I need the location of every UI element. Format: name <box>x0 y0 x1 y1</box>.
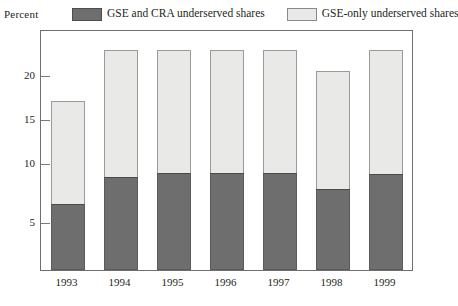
bar-segment-gse-cra-1998 <box>316 189 350 270</box>
plot-area <box>40 30 413 271</box>
bar-1995 <box>157 50 191 270</box>
bar-segment-gse-cra-1997 <box>263 173 297 270</box>
y-tick-label-15: 15 <box>24 113 35 125</box>
y-tick-label-5: 5 <box>30 216 36 228</box>
x-tick-label-1997: 1997 <box>268 276 290 288</box>
bar-segment-gse-cra-1996 <box>210 173 244 270</box>
bar-segment-gse-only-1997 <box>263 50 297 173</box>
bar-segment-gse-cra-1993 <box>51 204 85 270</box>
bar-1999 <box>369 50 403 270</box>
bar-1997 <box>263 50 297 270</box>
y-tick-label-10: 10 <box>24 157 35 169</box>
x-tick-label-1996: 1996 <box>215 276 237 288</box>
bar-segment-gse-cra-1995 <box>157 173 191 270</box>
bar-segment-gse-only-1999 <box>369 50 403 175</box>
x-axis-tick-labels: 1993199419951996199719981999 <box>40 274 413 296</box>
dark-swatch-icon <box>72 8 102 21</box>
bar-group <box>41 31 412 270</box>
legend-label-gse-only: GSE-only underserved shares <box>322 8 458 20</box>
legend-label-gse-cra: GSE and CRA underserved shares <box>107 8 265 20</box>
light-swatch-icon <box>287 8 317 21</box>
bar-segment-gse-only-1994 <box>104 50 138 177</box>
x-tick-label-1993: 1993 <box>56 276 78 288</box>
x-tick-label-1999: 1999 <box>374 276 396 288</box>
x-tick-label-1994: 1994 <box>109 276 131 288</box>
chart-legend: GSE and CRA underserved shares GSE-only … <box>72 4 416 24</box>
bar-1998 <box>316 71 350 270</box>
bar-1994 <box>104 50 138 270</box>
bar-segment-gse-only-1998 <box>316 71 350 189</box>
bar-segment-gse-only-1993 <box>51 101 85 204</box>
bar-segment-gse-only-1995 <box>157 50 191 173</box>
chart-header: Percent GSE and CRA underserved shares G… <box>0 0 420 30</box>
y-axis-title: Percent <box>4 8 38 20</box>
y-axis-tick-labels: 20 15 10 5 <box>0 30 40 271</box>
legend-item-gse-only: GSE-only underserved shares <box>287 8 458 21</box>
legend-item-gse-cra: GSE and CRA underserved shares <box>72 8 265 21</box>
y-tick-label-20: 20 <box>24 69 35 81</box>
x-tick-label-1995: 1995 <box>162 276 184 288</box>
x-tick-label-1998: 1998 <box>321 276 343 288</box>
bar-1993 <box>51 101 85 270</box>
bar-segment-gse-cra-1999 <box>369 174 403 270</box>
bar-segment-gse-only-1996 <box>210 50 244 174</box>
bar-segment-gse-cra-1994 <box>104 177 138 270</box>
bar-1996 <box>210 50 244 270</box>
plot-inner <box>41 31 412 270</box>
